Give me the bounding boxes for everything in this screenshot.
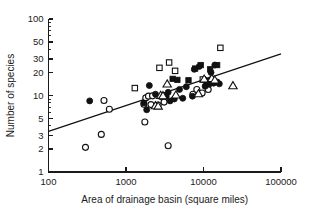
y-tick-label: 50 bbox=[33, 36, 44, 47]
y-tick-label: 30 bbox=[33, 53, 44, 64]
data-point-open-triangle bbox=[229, 82, 237, 89]
data-point-open-square bbox=[172, 68, 177, 73]
data-point-filled-circle bbox=[87, 98, 93, 104]
scatter-plot: 123510203050100100100010000100000Area of… bbox=[0, 0, 314, 216]
y-axis-title: Number of species bbox=[5, 54, 16, 137]
data-point-open-circle bbox=[98, 131, 104, 137]
data-point-open-square bbox=[166, 60, 171, 65]
data-markers-group bbox=[82, 45, 237, 150]
chart-figure: 123510203050100100100010000100000Area of… bbox=[0, 0, 314, 216]
data-point-filled-square bbox=[186, 78, 191, 83]
y-tick-label: 20 bbox=[33, 67, 44, 78]
data-point-filled-circle bbox=[183, 84, 189, 90]
data-point-open-circle bbox=[82, 144, 88, 150]
data-point-open-circle bbox=[165, 143, 171, 149]
x-tick-label: 10000 bbox=[190, 176, 216, 187]
x-axis-title: Area of drainage basin (square miles) bbox=[81, 194, 248, 205]
y-tick-label: 10 bbox=[33, 90, 44, 101]
data-point-open-circle bbox=[142, 119, 148, 125]
data-point-filled-square bbox=[192, 66, 197, 71]
data-point-open-circle bbox=[106, 106, 112, 112]
data-point-filled-square bbox=[207, 67, 212, 72]
data-point-filled-circle bbox=[176, 86, 182, 92]
data-point-filled-circle bbox=[146, 83, 152, 89]
data-point-open-square bbox=[157, 65, 162, 70]
data-point-open-circle bbox=[101, 98, 107, 104]
x-tick-label: 100000 bbox=[265, 176, 297, 187]
y-tick-label: 2 bbox=[38, 143, 43, 154]
y-tick-label: 3 bbox=[38, 130, 43, 141]
data-point-filled-square bbox=[198, 62, 203, 67]
data-point-filled-circle bbox=[144, 107, 150, 113]
data-point-filled-circle bbox=[165, 89, 171, 95]
regression-line-group bbox=[49, 54, 282, 131]
y-tick-label: 100 bbox=[28, 13, 44, 24]
data-point-open-circle bbox=[161, 99, 167, 105]
data-point-open-square bbox=[132, 85, 137, 90]
y-tick-label: 5 bbox=[38, 113, 43, 124]
data-point-filled-square bbox=[214, 62, 219, 67]
data-point-filled-square bbox=[175, 77, 180, 82]
x-tick-label: 1000 bbox=[115, 176, 136, 187]
x-tick-label: 100 bbox=[41, 176, 57, 187]
regression-line bbox=[49, 54, 282, 131]
data-point-filled-circle bbox=[141, 100, 147, 106]
data-point-open-square bbox=[218, 45, 223, 50]
